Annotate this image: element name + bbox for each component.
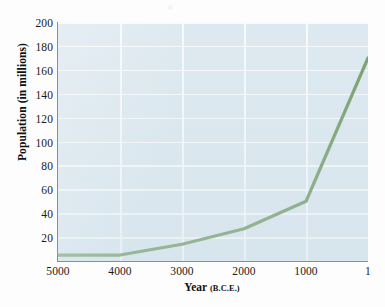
- x-tick-2000: 2000: [214, 266, 274, 278]
- x-tick-1: 1: [338, 266, 385, 278]
- x-tick-5000: 5000: [28, 266, 88, 278]
- y-tick-40: 40: [9, 209, 53, 221]
- x-axis-title-qualifier: (B.C.E.): [210, 284, 240, 293]
- x-tick-1000: 1000: [276, 266, 336, 278]
- x-tick-4000: 4000: [90, 266, 150, 278]
- population-line-series: [58, 22, 368, 261]
- population-line-path: [58, 58, 368, 255]
- y-tick-20: 20: [9, 233, 53, 245]
- plot-area: [57, 22, 368, 262]
- x-axis-title: Year (B.C.E.): [57, 281, 367, 293]
- x-tick-3000: 3000: [152, 266, 212, 278]
- y-axis-title: Population (in millions): [16, 22, 28, 182]
- x-axis-title-main: Year: [184, 281, 207, 293]
- scan-artifact: [168, 5, 173, 10]
- y-tick-60: 60: [9, 185, 53, 197]
- population-chart-figure: 200 180 160 140 120 100 80 60 40 20 Popu…: [0, 0, 385, 307]
